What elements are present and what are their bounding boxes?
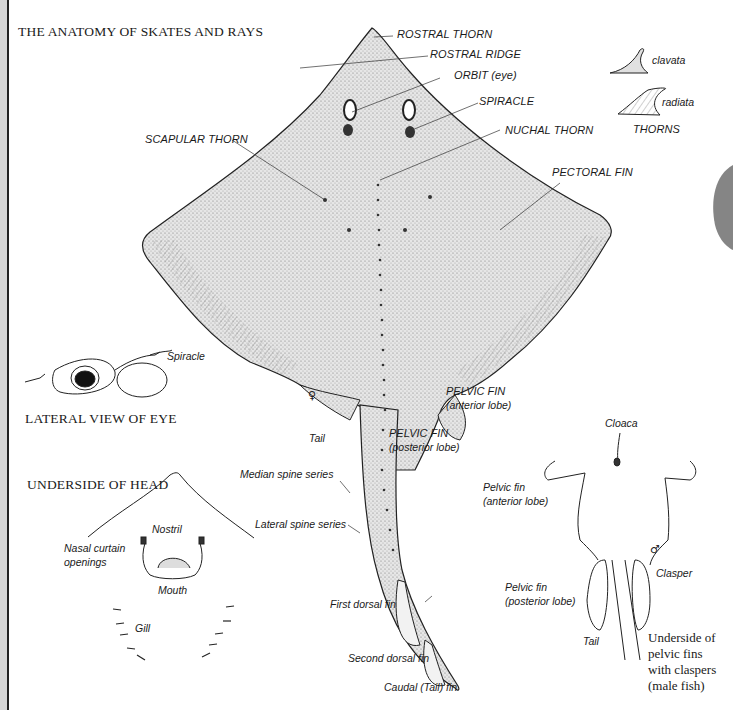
caption-line-1: Underside of <box>648 630 716 646</box>
anatomy-page: THE ANATOMY OF SKATES AND RAYS ROSTRAL T… <box>0 0 733 710</box>
label-mouth: Mouth <box>158 583 187 597</box>
label-clasper: Clasper <box>656 566 692 580</box>
label-tail: Tail <box>309 431 325 445</box>
label-first-dorsal-fin: First dorsal fin <box>330 597 396 611</box>
pelvic-caption: Underside of pelvic fins with claspers (… <box>648 630 716 694</box>
label-pectoral-fin: PECTORAL FIN <box>552 166 633 178</box>
caption-line-3: with claspers <box>648 662 716 678</box>
label-tail-underside: Tail <box>583 634 599 648</box>
label-pelvic-fin-anterior-title: PELVIC FIN <box>446 384 505 398</box>
label-scapular-thorn: SCAPULAR THORN <box>145 133 248 145</box>
label-lateral-spiracle: Spiracle <box>167 349 205 363</box>
caption-line-2: pelvic fins <box>648 646 716 662</box>
label-nasal-curtain-2: openings <box>64 555 107 569</box>
label-median-spine-series: Median spine series <box>240 467 333 481</box>
label-lateral-spine-series: Lateral spine series <box>255 517 346 531</box>
label-nasal-curtain-1: Nasal curtain <box>64 541 125 555</box>
lateral-eye-illustration <box>25 350 172 397</box>
label-rostral-ridge: ROSTRAL RIDGE <box>430 48 521 60</box>
label-nuchal-thorn: NUCHAL THORN <box>505 124 593 136</box>
label-pelvic-posterior-1: Pelvic fin <box>505 580 547 594</box>
label-caudal-fin: Caudal (Tail) fin <box>384 680 457 694</box>
thorn-radiata-illustration <box>618 88 666 115</box>
label-pelvic-fin-posterior-title: PELVIC FIN <box>389 426 448 440</box>
label-pelvic-anterior-1: Pelvic fin <box>483 480 525 494</box>
male-symbol: ♂ <box>650 543 660 556</box>
pelvic-underside-illustration <box>545 433 696 660</box>
label-cloaca: Cloaca <box>605 416 638 430</box>
label-gill: Gill <box>135 621 150 635</box>
gill-slits <box>113 606 234 660</box>
label-pelvic-posterior-2: (posterior lobe) <box>505 594 576 608</box>
label-radiata: radiata <box>662 95 694 109</box>
female-symbol: ♀ <box>308 389 316 402</box>
label-pelvic-fin-posterior-sub: (posterior lobe) <box>389 440 460 454</box>
partial-illustration-edge <box>713 165 733 250</box>
lateral-eye-title: LATERAL VIEW OF EYE <box>25 411 177 427</box>
label-second-dorsal-fin: Second dorsal fin <box>348 651 429 665</box>
main-title: THE ANATOMY OF SKATES AND RAYS <box>18 24 263 40</box>
thorn-clavata-illustration <box>610 49 648 73</box>
label-clavata: clavata <box>652 53 685 67</box>
label-nostril: Nostril <box>152 522 182 536</box>
label-pelvic-fin-anterior-sub: (anterior lobe) <box>446 398 511 412</box>
label-pelvic-anterior-2: (anterior lobe) <box>483 494 548 508</box>
caption-line-4: (male fish) <box>648 678 716 694</box>
label-rostral-thorn: ROSTRAL THORN <box>397 28 492 40</box>
label-orbit: ORBIT (eye) <box>454 69 517 81</box>
label-spiracle: SPIRACLE <box>479 95 534 107</box>
underside-head-title: UNDERSIDE OF HEAD <box>27 477 168 493</box>
thorns-heading: THORNS <box>633 123 680 135</box>
